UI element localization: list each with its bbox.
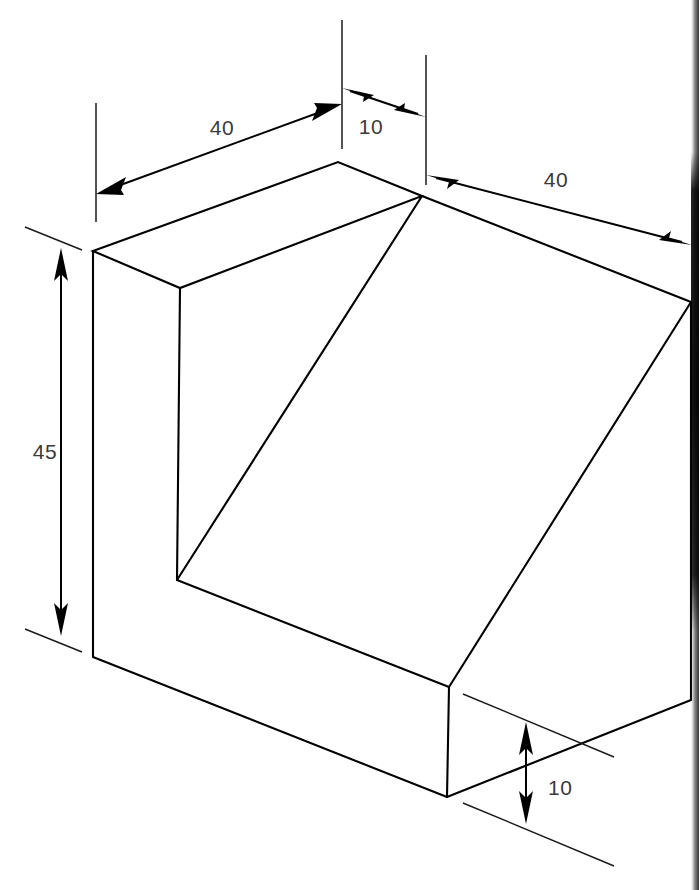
extension-line-upper-bottom10 xyxy=(463,694,614,757)
dimension-bottom-right-10: 10 xyxy=(463,694,614,866)
solid-object xyxy=(93,162,691,797)
dimension-label-left-45: 45 xyxy=(33,440,57,463)
arrowhead-left-right40 xyxy=(426,175,459,189)
arrowhead-right-40 xyxy=(312,103,342,121)
face-right-top xyxy=(422,196,691,700)
dimension-label-bottom-10: 10 xyxy=(548,776,572,799)
dimension-label-top-middle-10: 10 xyxy=(359,115,383,138)
dimension-label-top-right-40: 40 xyxy=(544,168,568,191)
face-front-left xyxy=(93,251,447,797)
extension-line-lower-bottom10 xyxy=(463,803,614,866)
isometric-drawing-svg: 40 10 40 45 xyxy=(0,0,699,890)
face-top xyxy=(93,162,422,288)
technical-drawing-canvas: 40 10 40 45 xyxy=(0,0,699,890)
arrowhead-right-right40 xyxy=(659,231,692,245)
arrowhead-left-10 xyxy=(342,88,374,102)
arrowhead-left-40 xyxy=(96,177,126,195)
edge-base-front-vertical xyxy=(447,687,449,797)
dimension-left-vertical-45: 45 xyxy=(25,227,82,652)
dimension-top-middle-10: 10 xyxy=(342,55,426,185)
dimension-label-top-left-40: 40 xyxy=(210,116,234,139)
extension-line-top-45 xyxy=(25,227,82,250)
arrowhead-right-10 xyxy=(394,103,426,117)
extension-line-bottom-45 xyxy=(25,629,82,652)
